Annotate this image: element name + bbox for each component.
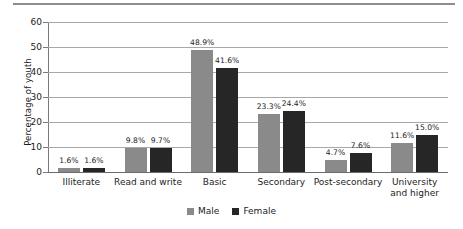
x-category-line: University bbox=[392, 177, 437, 187]
y-tick-mark bbox=[43, 122, 48, 123]
bar-value-label: 48.9% bbox=[182, 39, 222, 47]
bar-value-label: 7.6% bbox=[341, 142, 381, 150]
x-category-label: Universityand higher bbox=[373, 177, 456, 198]
bar-male[interactable] bbox=[191, 50, 213, 172]
bar-male[interactable] bbox=[58, 168, 80, 172]
y-tick-mark bbox=[43, 72, 48, 73]
bar-male[interactable] bbox=[258, 114, 280, 172]
bar-male[interactable] bbox=[125, 148, 147, 173]
y-tick-mark bbox=[43, 22, 48, 23]
y-tick-label: 0 bbox=[12, 168, 42, 177]
bar-female[interactable] bbox=[83, 168, 105, 172]
top-divider-rule bbox=[13, 3, 455, 5]
legend-swatch-male-icon bbox=[187, 208, 194, 215]
legend-label-female: Female bbox=[243, 206, 276, 216]
y-tick-mark bbox=[43, 47, 48, 48]
gridline bbox=[48, 147, 448, 148]
gridline bbox=[48, 122, 448, 123]
y-tick-label: 50 bbox=[12, 43, 42, 52]
bar-female[interactable] bbox=[350, 153, 372, 172]
bar-chart-figure: Percentage of youth 0102030405060 1.6%1.… bbox=[0, 0, 463, 229]
bar-value-label: 1.6% bbox=[74, 157, 114, 165]
plot-area: 1.6%1.6%9.8%9.7%48.9%41.6%23.3%24.4%4.7%… bbox=[48, 22, 448, 172]
x-category-line: Basic bbox=[203, 177, 227, 187]
y-tick-label: 60 bbox=[12, 18, 42, 27]
legend-item-male[interactable]: Male bbox=[187, 206, 219, 216]
gridline bbox=[48, 47, 448, 48]
bar-female[interactable] bbox=[216, 68, 238, 172]
bar-female[interactable] bbox=[283, 111, 305, 172]
x-category-line: Post-secondary bbox=[314, 177, 383, 187]
bar-female[interactable] bbox=[416, 135, 438, 173]
x-category-line: and higher bbox=[390, 188, 439, 198]
y-tick-mark bbox=[43, 172, 48, 173]
legend-label-male: Male bbox=[198, 206, 219, 216]
bar-male[interactable] bbox=[325, 160, 347, 172]
y-tick-mark bbox=[43, 147, 48, 148]
y-tick-mark bbox=[43, 97, 48, 98]
legend-swatch-female-icon bbox=[232, 208, 239, 215]
gridline bbox=[48, 97, 448, 98]
gridline bbox=[48, 172, 448, 173]
bar-value-label: 24.4% bbox=[274, 100, 314, 108]
bar-male[interactable] bbox=[391, 143, 413, 172]
y-tick-label: 40 bbox=[12, 68, 42, 77]
bar-value-label: 41.6% bbox=[207, 57, 247, 65]
legend-item-female[interactable]: Female bbox=[232, 206, 276, 216]
bar-value-label: 15.0% bbox=[407, 124, 447, 132]
bar-value-label: 9.7% bbox=[141, 137, 181, 145]
bar-female[interactable] bbox=[150, 148, 172, 172]
y-tick-label: 20 bbox=[12, 118, 42, 127]
y-tick-label: 10 bbox=[12, 143, 42, 152]
y-tick-label: 30 bbox=[12, 93, 42, 102]
gridline bbox=[48, 22, 448, 23]
chart-legend: Male Female bbox=[0, 206, 463, 216]
x-category-line: Read and write bbox=[114, 177, 182, 187]
y-axis-tick-labels: 0102030405060 bbox=[11, 22, 42, 173]
x-category-line: Secondary bbox=[257, 177, 305, 187]
x-category-line: Illiterate bbox=[63, 177, 101, 187]
gridline bbox=[48, 72, 448, 73]
